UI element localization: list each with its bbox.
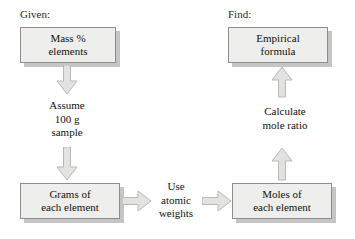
flowchart-diagram: Given: Find: Mass % elements Empirical f… [0, 0, 355, 239]
arrow-up-calculate-to-empirical-formula [271, 66, 293, 98]
node-mass-percent-elements[interactable]: Mass % elements [20, 27, 116, 63]
node-moles-each-element[interactable]: Moles of each element [232, 183, 332, 219]
node-grams-each-element[interactable]: Grams of each element [20, 183, 120, 219]
caption-assume-100g-sample: Assume 100 g sample [24, 99, 110, 140]
node-mass-percent-elements-label: Mass % elements [44, 32, 91, 58]
node-grams-each-element-label: Grams of each element [37, 188, 103, 214]
arrow-right-atomic-weights-to-moles [202, 190, 232, 212]
caption-use-atomic-weights: Use atomic weights [148, 180, 204, 221]
arrow-down-mass-to-assume [56, 65, 78, 95]
find-label: Find: [228, 8, 251, 21]
caption-calculate-mole-ratio: Calculate mole ratio [240, 105, 330, 132]
node-moles-each-element-label: Moles of each element [249, 188, 315, 214]
arrow-up-moles-to-calculate [271, 147, 293, 181]
given-label: Given: [20, 8, 50, 21]
node-empirical-formula[interactable]: Empirical formula [228, 27, 328, 63]
arrow-down-assume-to-grams [56, 147, 78, 181]
node-empirical-formula-label: Empirical formula [252, 32, 303, 58]
